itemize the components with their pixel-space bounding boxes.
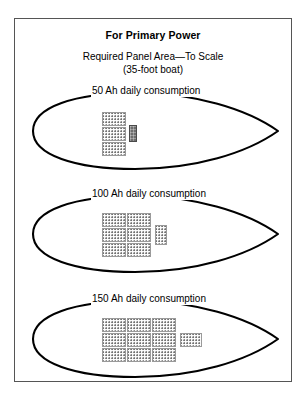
figure-subtitle-line-1: Required Panel Area—To Scale bbox=[15, 51, 291, 64]
solar-panel bbox=[127, 228, 151, 242]
panel-grid-row bbox=[101, 332, 176, 347]
solar-panel-partial bbox=[180, 333, 202, 347]
panel-grid-150ah bbox=[101, 317, 176, 362]
solar-panel bbox=[102, 228, 126, 242]
solar-panel bbox=[152, 333, 176, 347]
solar-panel bbox=[127, 348, 151, 362]
solar-panel bbox=[127, 213, 151, 227]
boat-diagram-150ah: 150 Ah daily consumption bbox=[15, 289, 293, 389]
solar-panel bbox=[102, 213, 126, 227]
solar-panel bbox=[102, 333, 126, 347]
accent-panel-wrap bbox=[179, 332, 202, 347]
solar-panel bbox=[102, 127, 126, 141]
boat-diagram-50ah: 50 Ah daily consumption bbox=[15, 81, 293, 181]
panel-grid-100ah bbox=[101, 212, 151, 257]
panel-grid-row bbox=[101, 126, 126, 141]
panel-grid-row bbox=[101, 347, 176, 362]
solar-panel-partial bbox=[155, 225, 167, 245]
panel-grid-row bbox=[101, 242, 151, 257]
figure-frame: For Primary Power Required Panel Area—To… bbox=[14, 18, 292, 382]
boat-label-50ah: 50 Ah daily consumption bbox=[91, 85, 201, 97]
solar-panel-partial bbox=[129, 125, 137, 142]
panel-grid-row bbox=[101, 317, 176, 332]
accent-panel-wrap bbox=[154, 224, 167, 245]
figure-subtitle-line-2: (35-foot boat) bbox=[15, 64, 291, 77]
solar-panel bbox=[102, 142, 126, 156]
solar-panel bbox=[152, 318, 176, 332]
boat-label-150ah: 150 Ah daily consumption bbox=[91, 293, 207, 305]
solar-panel bbox=[127, 318, 151, 332]
solar-panel bbox=[152, 348, 176, 362]
solar-panel bbox=[102, 243, 126, 257]
solar-panel bbox=[102, 348, 126, 362]
boat-diagram-100ah: 100 Ah daily consumption bbox=[15, 184, 293, 284]
solar-panel-array-150ah bbox=[101, 317, 202, 362]
figure-heading: For Primary Power Required Panel Area—To… bbox=[15, 29, 291, 76]
solar-panel-array-50ah bbox=[101, 111, 137, 156]
solar-panel bbox=[102, 318, 126, 332]
panel-grid-row bbox=[101, 141, 126, 156]
boat-label-100ah: 100 Ah daily consumption bbox=[91, 188, 207, 200]
solar-panel bbox=[127, 333, 151, 347]
solar-panel bbox=[102, 112, 126, 126]
panel-grid-row bbox=[101, 212, 151, 227]
panel-grid-row bbox=[101, 227, 151, 242]
page-title: For Primary Power bbox=[15, 29, 291, 42]
solar-panel bbox=[127, 243, 151, 257]
accent-panel-wrap bbox=[128, 125, 137, 143]
solar-panel-array-100ah bbox=[101, 212, 167, 257]
panel-grid-row bbox=[101, 111, 126, 126]
panel-grid-50ah bbox=[101, 111, 126, 156]
